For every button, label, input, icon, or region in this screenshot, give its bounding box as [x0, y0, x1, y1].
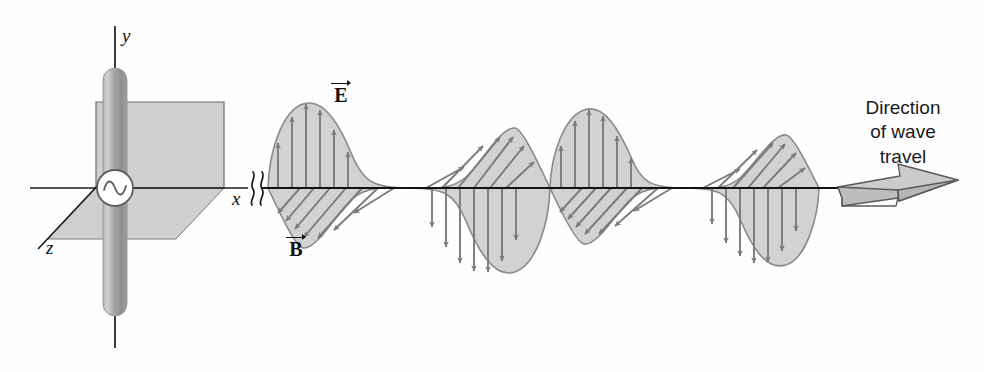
block-arrow-side-face	[838, 187, 898, 206]
em-wave-diagram	[0, 0, 984, 372]
e-lobe	[550, 109, 686, 188]
figure-canvas: y x z E B Direction of wave travel	[0, 0, 984, 372]
b-vector-arrow-bar	[285, 234, 307, 241]
axis-label-y: y	[122, 26, 130, 45]
wave-travel-arrow	[838, 164, 958, 206]
axis-label-x: x	[232, 189, 240, 208]
e-lobe	[268, 103, 409, 188]
b-field-label: B	[285, 234, 307, 259]
xz-plane	[48, 188, 224, 239]
wave-travel-caption: Direction of wave travel	[828, 96, 978, 169]
e-lobe	[409, 188, 550, 273]
wave-travel-caption-line-2: of wave	[828, 120, 978, 144]
e-vector-arrow-bar	[330, 80, 352, 87]
b-field-label-text: B	[285, 239, 307, 259]
e-lobe	[686, 188, 819, 266]
b-lobe	[686, 135, 819, 188]
wave-travel-caption-line-1: Direction	[828, 96, 978, 120]
antenna-source-group	[30, 26, 263, 348]
axis-break-symbol	[251, 172, 263, 205]
e-field-label-text: E	[330, 85, 352, 105]
axis-label-z: z	[46, 238, 53, 257]
em-wave-group	[262, 103, 870, 273]
e-field-label: E	[330, 80, 352, 105]
wave-travel-caption-line-3: travel	[828, 145, 978, 169]
